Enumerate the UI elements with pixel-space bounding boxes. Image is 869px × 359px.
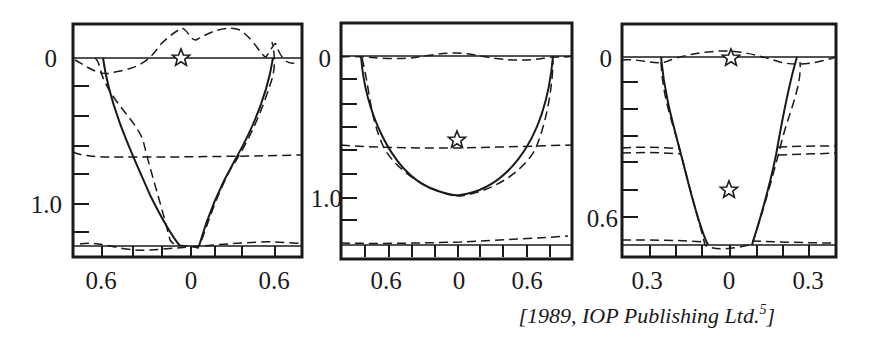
y-tick-label-1: 1.0 xyxy=(311,185,342,212)
panel-1-frame xyxy=(73,24,302,257)
x-ticks xyxy=(365,245,550,257)
x-ticks xyxy=(650,245,809,257)
y-tick-label-0: 0 xyxy=(600,45,613,72)
x-tick-label-left: 0.6 xyxy=(370,267,401,294)
x-tick-label-right: 0.3 xyxy=(792,267,823,294)
solid-boundary xyxy=(361,56,553,195)
solid-boundary-left xyxy=(103,58,180,246)
panel-1: 0 1.0 0.6 0 0.6 xyxy=(31,24,302,294)
y-tick-label-1: 1.0 xyxy=(31,191,62,218)
dashed-boundary xyxy=(95,42,274,248)
x-tick-label-center: 0 xyxy=(185,267,198,294)
x-tick-label-left: 0.3 xyxy=(631,267,662,294)
dashed-interface-2 xyxy=(622,153,836,155)
panel-3: 0 0.6 0.3 0 0.3 xyxy=(587,24,836,294)
caption-close: ] xyxy=(766,303,775,328)
solid-boundary-left xyxy=(661,57,708,245)
star-marker xyxy=(172,49,189,65)
dashed-bottom xyxy=(622,240,836,243)
y-ticks xyxy=(622,82,638,217)
y-tick-label-0: 0 xyxy=(319,45,332,72)
figure-caption: [1989, IOP Publishing Ltd.5] xyxy=(0,302,869,329)
star-marker-interior xyxy=(720,181,737,197)
x-tick-label-center: 0 xyxy=(453,267,466,294)
dashed-interface xyxy=(73,152,302,157)
dashed-top-surface xyxy=(75,28,295,74)
x-ticks xyxy=(102,246,275,257)
star-marker xyxy=(448,131,465,147)
solid-boundary-right xyxy=(752,57,797,245)
y-tick-label-0: 0 xyxy=(45,45,58,72)
dashed-interface xyxy=(341,145,572,148)
solid-boundary-right xyxy=(199,58,273,246)
dashed-bottom xyxy=(341,236,568,243)
dashed-interface-1 xyxy=(622,146,836,149)
x-tick-label-center: 0 xyxy=(723,267,736,294)
x-tick-label-right: 0.6 xyxy=(511,267,542,294)
caption-text: [1989, IOP Publishing Ltd. xyxy=(518,303,759,328)
dashed-boundary xyxy=(362,58,553,196)
y-ticks xyxy=(73,86,89,232)
panel-2: 0 1.0 0.6 0 0.6 xyxy=(311,23,572,294)
x-tick-label-right: 0.6 xyxy=(258,267,289,294)
y-tick-label-1: 0.6 xyxy=(587,205,618,232)
y-ticks xyxy=(341,79,357,220)
x-tick-label-left: 0.6 xyxy=(85,267,116,294)
